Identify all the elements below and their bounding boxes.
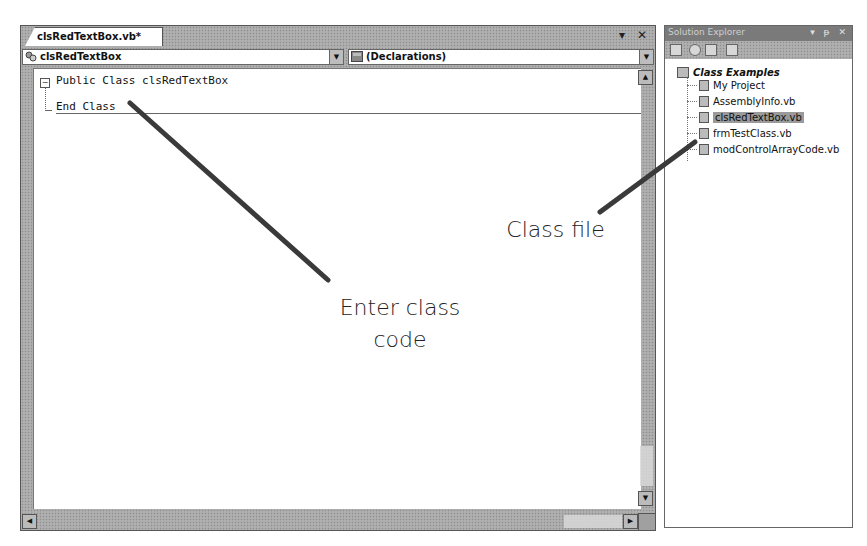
callout-line-1: Enter class	[325, 292, 475, 324]
vb-file-icon	[699, 96, 709, 107]
close-panel-icon[interactable]: ✕	[838, 27, 849, 37]
class-name-combo[interactable]: clsRedTextBox ▼	[22, 49, 344, 65]
scroll-thumb[interactable]	[640, 446, 653, 486]
horizontal-scroll-thumb[interactable]	[564, 515, 622, 528]
solution-explorer-panel: Solution Explorer ▾ ᵽ ✕ Class Examples M…	[664, 25, 853, 528]
vertical-scrollbar[interactable]: ▲ ▼	[638, 68, 655, 508]
tree-connector	[687, 149, 697, 150]
close-document-icon[interactable]: ✕	[637, 28, 651, 42]
window-position-dropdown-icon[interactable]: ▾	[810, 27, 818, 37]
class-name-value: clsRedTextBox	[40, 51, 121, 62]
collapse-region-icon[interactable]: −	[40, 78, 50, 88]
code-line-2[interactable]: End Class	[56, 100, 116, 113]
tree-connector	[687, 101, 697, 102]
tab-clsredtextbox[interactable]: clsRedTextBox.vb*	[25, 27, 163, 46]
scrollbar-corner	[638, 513, 655, 530]
navigation-bar: clsRedTextBox ▼ (Declarations) ▼	[21, 46, 655, 68]
project-icon	[677, 67, 689, 78]
code-editor[interactable]: − Public Class clsRedTextBox End Class	[33, 68, 641, 509]
method-name-value: (Declarations)	[366, 51, 446, 62]
class-icon	[25, 51, 37, 62]
solution-explorer-titlebar[interactable]: Solution Explorer ▾ ᵽ ✕	[665, 26, 852, 41]
show-all-files-icon[interactable]	[705, 44, 717, 56]
document-tabstrip: clsRedTextBox.vb* ▾ ✕	[21, 26, 655, 46]
scroll-up-arrow-icon[interactable]: ▲	[638, 70, 653, 85]
solution-explorer-title: Solution Explorer	[668, 27, 745, 37]
titlebar-controls: ▾ ᵽ ✕	[810, 27, 849, 37]
scroll-right-arrow-icon[interactable]: ▶	[623, 514, 638, 529]
chevron-down-icon[interactable]: ▼	[329, 50, 343, 64]
code-line-1[interactable]: Public Class clsRedTextBox	[56, 74, 228, 87]
view-code-icon[interactable]	[726, 44, 738, 56]
tree-item-clsredtextbox[interactable]: clsRedTextBox.vb	[699, 111, 804, 124]
scroll-down-arrow-icon[interactable]: ▼	[638, 491, 653, 506]
fold-guide	[45, 88, 52, 111]
tree-root-class-examples[interactable]: Class Examples	[677, 66, 780, 79]
procedure-separator	[56, 113, 641, 114]
tree-connector	[687, 133, 697, 134]
properties-icon[interactable]	[670, 44, 682, 56]
tree-item-my-project[interactable]: My Project	[699, 79, 765, 92]
auto-hide-pin-icon[interactable]: ᵽ	[824, 27, 833, 37]
tree-item-modcontrolarraycode[interactable]: modControlArrayCode.vb	[699, 143, 839, 156]
solution-explorer-toolbar	[665, 41, 852, 59]
tree-item-assemblyinfo[interactable]: AssemblyInfo.vb	[699, 95, 795, 108]
declarations-icon	[351, 51, 363, 62]
method-name-combo[interactable]: (Declarations) ▼	[348, 49, 654, 65]
callout-class-file: Class file	[493, 214, 618, 246]
chevron-down-icon[interactable]: ▼	[639, 50, 653, 64]
code-editor-window: clsRedTextBox.vb* ▾ ✕ clsRedTextBox ▼ (D…	[20, 25, 656, 531]
form-file-icon	[699, 128, 709, 139]
tree-connector	[687, 117, 697, 118]
callout-enter-class-code: Enter class code	[325, 292, 475, 356]
tree-connector	[687, 85, 697, 86]
window-position-dropdown-icon[interactable]: ▾	[619, 28, 629, 42]
tab-controls: ▾ ✕	[619, 28, 651, 42]
callout-line-2: code	[325, 324, 475, 356]
scroll-left-arrow-icon[interactable]: ◀	[22, 514, 37, 529]
horizontal-scrollbar[interactable]: ◀ ▶	[21, 513, 640, 530]
vb-file-icon	[699, 112, 709, 123]
my-project-icon	[699, 80, 709, 91]
vb-file-icon	[699, 144, 709, 155]
tree-item-frmtestclass[interactable]: frmTestClass.vb	[699, 127, 792, 140]
refresh-icon[interactable]	[689, 44, 701, 56]
